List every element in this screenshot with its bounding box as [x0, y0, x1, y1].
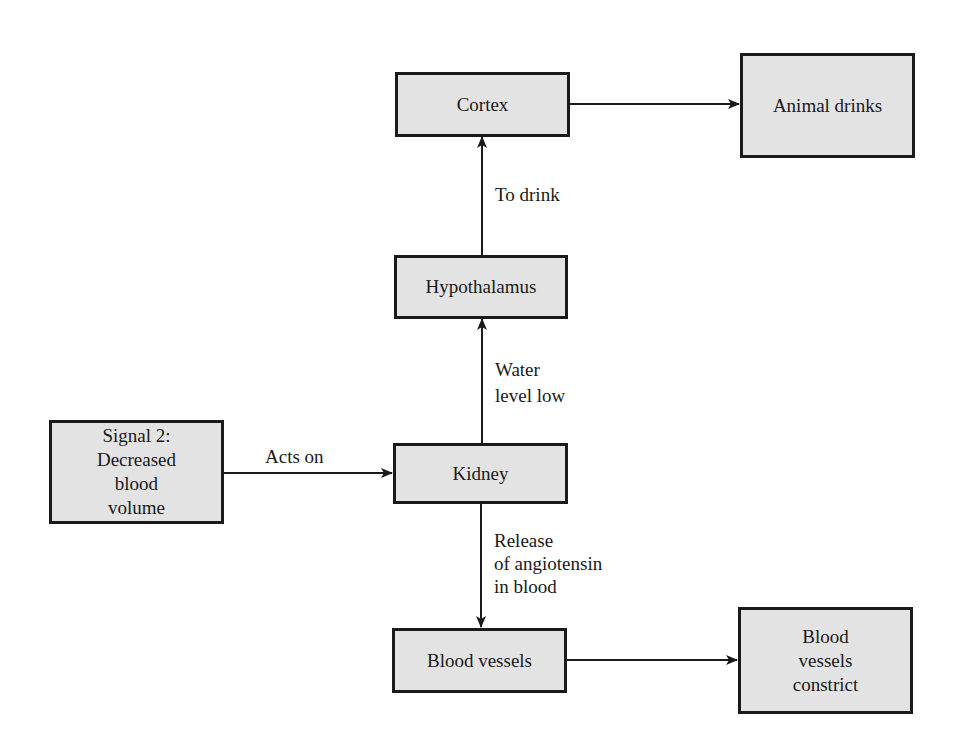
node-blood-vessels-label: Blood vessels	[427, 649, 532, 673]
node-signal-label: Signal 2: Decreased blood volume	[97, 424, 176, 520]
node-hypothalamus-label: Hypothalamus	[426, 275, 537, 299]
node-animal-drinks-label: Animal drinks	[773, 94, 882, 118]
node-signal-decreased-blood-volume: Signal 2: Decreased blood volume	[49, 420, 224, 524]
node-blood-vessels-constrict: Blood vessels constrict	[738, 607, 913, 714]
node-kidney: Kidney	[393, 443, 568, 504]
node-blood-vessels: Blood vessels	[392, 628, 567, 693]
node-hypothalamus: Hypothalamus	[394, 255, 568, 319]
node-cortex: Cortex	[395, 72, 570, 137]
edge-label-to-drink: To drink	[495, 183, 560, 207]
node-blood-vessels-constrict-label: Blood vessels constrict	[793, 625, 858, 697]
node-kidney-label: Kidney	[453, 462, 509, 486]
node-animal-drinks: Animal drinks	[740, 53, 915, 158]
edge-label-acts-on: Acts on	[265, 445, 324, 469]
node-cortex-label: Cortex	[457, 93, 509, 117]
edge-label-water-level-low: Water level low	[495, 357, 565, 409]
edge-label-release-angiotensin: Release of angiotensin in blood	[494, 529, 602, 598]
